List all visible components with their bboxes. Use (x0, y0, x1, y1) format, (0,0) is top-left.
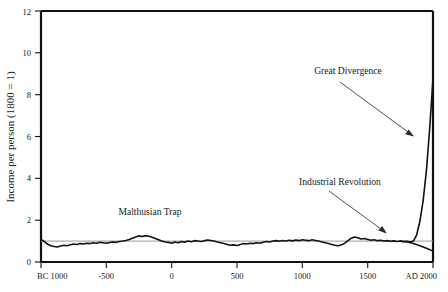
x-tick-label-minus-500: -500 (99, 271, 115, 281)
x-tick-label-1500: 1500 (359, 271, 376, 281)
x-tick-label-1000: 1000 (294, 271, 311, 281)
x-axis-tick-labels: BC 1000 -500 0 500 1000 1500 AD 2000 (37, 271, 437, 281)
x-tick-label-0: 0 (170, 271, 174, 281)
annotation-great-divergence: Great Divergence (314, 65, 382, 76)
y-tick-label-8: 8 (27, 90, 31, 100)
y-tick-label-6: 6 (27, 132, 31, 142)
y-axis-tick-labels: 0 2 4 6 8 10 12 (23, 7, 32, 268)
chart-canvas: 0 2 4 6 8 10 12 BC 1000 -500 0 500 1000 … (0, 0, 448, 292)
x-tick-label-500: 500 (231, 271, 244, 281)
income-per-person-chart: 0 2 4 6 8 10 12 BC 1000 -500 0 500 1000 … (0, 0, 448, 292)
x-tick-label-bc-1000: BC 1000 (37, 271, 67, 281)
y-tick-label-2: 2 (27, 215, 31, 225)
y-tick-label-0: 0 (27, 257, 31, 267)
y-tick-label-4: 4 (27, 173, 32, 183)
y-tick-label-10: 10 (23, 48, 32, 58)
y-tick-label-12: 12 (23, 7, 32, 17)
y-axis-title: Income per person (1800 = 1) (4, 71, 17, 202)
annotation-industrial-revolution: Industrial Revolution (299, 176, 381, 187)
x-tick-label-ad-2000: AD 2000 (406, 271, 437, 281)
annotation-malthusian-trap: Malthusian Trap (118, 206, 181, 217)
